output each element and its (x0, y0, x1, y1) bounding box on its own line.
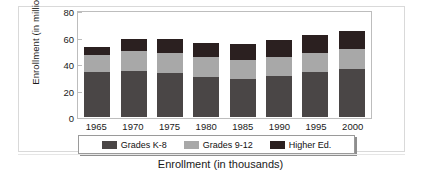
bar-segment-1995-grades-9-12 (302, 53, 328, 72)
bar-segment-1965-grades-9-12 (84, 55, 110, 72)
bar-segment-1985-grades-k-8 (230, 79, 256, 117)
x-tick-1990: 1990 (262, 121, 296, 132)
bar-1980 (193, 43, 219, 117)
chart-caption: Enrollment (in thousands) (0, 158, 441, 170)
bar-segment-1975-higher-ed (157, 39, 183, 54)
bar-segment-1980-grades-9-12 (193, 57, 219, 77)
bar-segment-1970-grades-9-12 (121, 51, 147, 71)
y-tick-60: 60 (63, 33, 74, 44)
y-tick-40: 40 (63, 60, 74, 71)
bar-segment-1975-grades-9-12 (157, 53, 183, 73)
bar-1970 (121, 39, 147, 117)
bar-1995 (302, 35, 328, 117)
bar-segment-1980-grades-k-8 (193, 77, 219, 117)
bar-segment-2000-higher-ed (339, 31, 365, 50)
bar-segment-1970-grades-k-8 (121, 71, 147, 117)
bar-1965 (84, 47, 110, 117)
y-tickmark-0 (78, 118, 82, 119)
stacked-bar-chart: Enrollment (in millions) 806040200 19651… (0, 0, 441, 177)
bar-group (79, 13, 370, 117)
bar-segment-1965-grades-k-8 (84, 72, 110, 117)
bar-segment-1990-grades-k-8 (266, 76, 292, 117)
bar-segment-1975-grades-k-8 (157, 73, 183, 117)
bar-segment-1995-grades-k-8 (302, 72, 328, 117)
bar-1985 (230, 44, 256, 117)
legend-label: Higher Ed. (289, 140, 332, 150)
bar-1990 (266, 40, 292, 117)
x-tick-1980: 1980 (189, 121, 223, 132)
y-tick-20: 20 (63, 86, 74, 97)
y-axis-tick-labels: 806040200 (52, 11, 74, 119)
bar-segment-1985-grades-9-12 (230, 60, 256, 79)
plot-area (77, 11, 372, 119)
bar-2000 (339, 31, 365, 117)
bar-1975 (157, 39, 183, 117)
bar-segment-2000-grades-k-8 (339, 69, 365, 117)
bar-segment-1965-higher-ed (84, 47, 110, 55)
y-tick-80: 80 (63, 7, 74, 18)
x-tick-1995: 1995 (299, 121, 333, 132)
y-axis-title: Enrollment (in millions) (30, 0, 41, 91)
bar-segment-1980-higher-ed (193, 43, 219, 58)
x-tick-2000: 2000 (336, 121, 370, 132)
bar-segment-1990-grades-9-12 (266, 57, 292, 76)
legend-item-grades-9-12[interactable]: Grades 9-12 (184, 140, 253, 150)
y-tick-0: 0 (69, 113, 74, 124)
bar-segment-1990-higher-ed (266, 40, 292, 57)
x-tick-1965: 1965 (79, 121, 113, 132)
x-axis-tick-labels: 19651970197519801985199019952000 (78, 121, 371, 132)
bar-segment-1985-higher-ed (230, 44, 256, 60)
x-tick-1985: 1985 (226, 121, 260, 132)
legend-label: Grades 9-12 (203, 140, 253, 150)
legend-item-higher-ed[interactable]: Higher Ed. (270, 140, 332, 150)
x-tick-1970: 1970 (116, 121, 150, 132)
bar-segment-1995-higher-ed (302, 35, 328, 54)
legend-swatch-icon (184, 141, 199, 149)
bar-segment-1970-higher-ed (121, 39, 147, 51)
legend-swatch-icon (102, 141, 117, 149)
legend-swatch-icon (270, 141, 285, 149)
chart-legend: Grades K-8Grades 9-12Higher Ed. (78, 135, 355, 154)
legend-item-grades-k-8[interactable]: Grades K-8 (102, 140, 167, 150)
legend-label: Grades K-8 (121, 140, 167, 150)
caption-divider (18, 154, 405, 155)
x-tick-1975: 1975 (153, 121, 187, 132)
bar-segment-2000-grades-9-12 (339, 49, 365, 69)
